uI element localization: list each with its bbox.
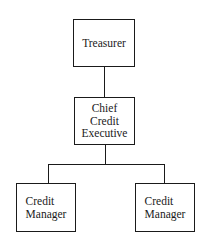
- chief-credit-executive-node: Chief Credit Executive: [74, 97, 135, 145]
- credit-manager-right-label: Credit Manager: [145, 195, 186, 220]
- connector-treasurer-chief: [104, 66, 105, 97]
- treasurer-label: Treasurer: [82, 37, 126, 50]
- credit-manager-left-node: Credit Manager: [16, 183, 76, 232]
- connector-chief-down: [105, 145, 106, 165]
- chief-credit-executive-label: Chief Credit Executive: [82, 102, 128, 140]
- treasurer-node: Treasurer: [73, 19, 135, 67]
- connector-to-left-manager: [48, 164, 49, 184]
- credit-manager-left-label: Credit Manager: [26, 195, 67, 220]
- connector-to-right-manager: [164, 164, 165, 184]
- credit-manager-right-node: Credit Manager: [135, 183, 195, 232]
- connector-horizontal: [48, 164, 165, 165]
